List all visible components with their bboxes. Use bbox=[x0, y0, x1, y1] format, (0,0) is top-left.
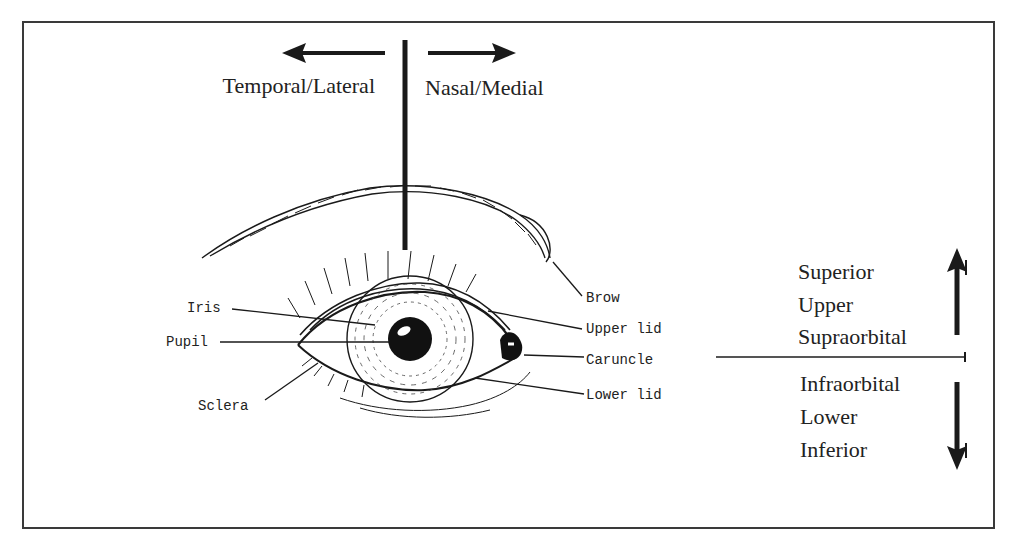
callout-caruncle: Caruncle bbox=[586, 352, 653, 368]
left-leader-lines bbox=[220, 309, 390, 400]
right-leader-lines bbox=[475, 262, 584, 394]
callout-sclera: Sclera bbox=[198, 398, 248, 414]
label-lower: Lower bbox=[800, 404, 858, 429]
label-upper: Upper bbox=[798, 292, 854, 317]
inferior-arrow-icon bbox=[947, 382, 967, 470]
temporal-lateral-label: Temporal/Lateral bbox=[223, 73, 375, 98]
upper-eyelashes bbox=[288, 251, 476, 318]
callout-brow: Brow bbox=[586, 290, 620, 306]
caruncle-shape bbox=[500, 332, 522, 360]
label-infraorbital: Infraorbital bbox=[800, 371, 900, 396]
pupil-shape bbox=[388, 317, 432, 361]
callout-iris: Iris bbox=[187, 300, 221, 316]
label-superior: Superior bbox=[798, 259, 874, 284]
callout-upper-lid: Upper lid bbox=[586, 321, 662, 337]
eye-illustration bbox=[288, 251, 530, 417]
callout-pupil: Pupil bbox=[166, 334, 208, 350]
label-inferior: Inferior bbox=[800, 437, 868, 462]
superior-arrow-icon bbox=[947, 248, 967, 335]
temporal-arrow-icon bbox=[282, 43, 385, 63]
nasal-arrow-icon bbox=[428, 43, 516, 63]
callout-lower-lid: Lower lid bbox=[586, 387, 662, 403]
label-supraorbital: Supraorbital bbox=[798, 324, 907, 349]
nasal-medial-label: Nasal/Medial bbox=[425, 75, 544, 100]
brow-illustration bbox=[202, 185, 550, 262]
eye-diagram: Temporal/Lateral Nasal/Medial bbox=[0, 0, 1017, 557]
